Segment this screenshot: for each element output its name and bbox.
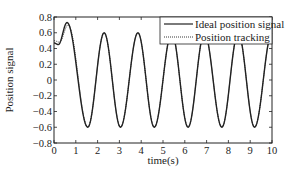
x-tick-label: 0 — [51, 145, 56, 156]
y-tick-label: −0.8 — [33, 138, 52, 149]
legend-item-tracking: Position tracking — [195, 31, 270, 43]
y-tick-label: 0.4 — [39, 43, 53, 54]
x-tick-label: 8 — [226, 145, 231, 156]
y-tick-label: 0.8 — [39, 12, 52, 23]
y-axis-label: Position signal — [3, 47, 15, 112]
x-axis-label: time(s) — [147, 154, 178, 167]
y-tick-label: −0.2 — [33, 90, 52, 101]
legend-item-ideal: Ideal position signal — [195, 18, 284, 30]
x-tick-label: 1 — [73, 145, 78, 156]
x-tick-label: 7 — [204, 145, 209, 156]
x-tick-label: 10 — [267, 145, 278, 156]
legend: Ideal position signal Position tracking — [160, 17, 284, 44]
y-tick-label: 0.6 — [39, 27, 52, 38]
y-tick-label: −0.4 — [33, 106, 53, 117]
y-tick-label: 0.2 — [39, 59, 52, 70]
y-tick-label: −0.6 — [33, 122, 52, 133]
x-tick-label: 3 — [117, 145, 122, 156]
position-signal-chart: 012345678910 −0.8−0.6−0.4−0.200.20.40.60… — [0, 0, 289, 174]
y-tick-label: 0 — [47, 75, 52, 86]
x-tick-label: 4 — [139, 145, 145, 156]
x-tick-label: 6 — [182, 145, 187, 156]
x-tick-label: 9 — [248, 145, 253, 156]
x-tick-label: 2 — [95, 145, 100, 156]
